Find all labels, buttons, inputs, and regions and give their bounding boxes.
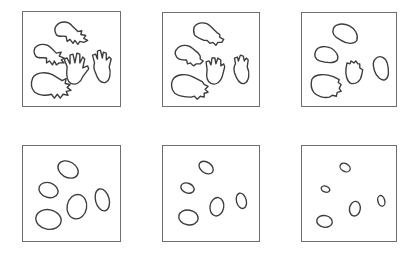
ellipse-icon — [320, 185, 330, 194]
rounded-hand-outline-icon — [175, 45, 203, 65]
ellipse-icon — [37, 180, 60, 201]
ellipse-icon — [197, 159, 216, 177]
small-ellipse-shapes — [302, 146, 396, 241]
blob-shapes — [302, 13, 396, 106]
panel-small-ellipses — [301, 145, 397, 242]
blob-outline-icon — [346, 61, 363, 84]
hand-outline-icon — [55, 22, 88, 44]
hand-outline-icon — [64, 53, 88, 84]
rounded-hand-outline-icon — [194, 23, 224, 45]
blob-outline-icon — [315, 47, 338, 63]
ellipse-icon — [55, 157, 81, 181]
hand-shapes — [23, 12, 120, 106]
panel-blobs — [301, 12, 397, 107]
hand-outline-icon — [32, 73, 71, 98]
rounded-hand-outline-icon — [172, 75, 209, 99]
rounded-hand-outline-icon — [206, 58, 225, 84]
ellipse-icon — [178, 209, 200, 227]
ellipse-icon — [179, 181, 195, 195]
ellipse-icon — [316, 214, 333, 228]
ellipse-icon — [377, 195, 386, 207]
rounded-hand-shapes — [163, 13, 259, 106]
ellipse-icon — [338, 161, 351, 173]
panel-large-ellipses — [22, 145, 121, 242]
large-ellipse-shapes — [23, 146, 120, 241]
blob-outline-icon — [373, 57, 388, 80]
panel-medium-ellipses — [162, 145, 260, 242]
ellipse-icon — [348, 201, 361, 217]
ellipse-icon — [65, 193, 89, 221]
blob-outline-icon — [333, 24, 358, 43]
ellipse-icon — [235, 192, 249, 210]
rounded-hand-outline-icon — [234, 55, 249, 83]
hand-outline-icon — [34, 44, 64, 64]
medium-ellipse-shapes — [163, 146, 259, 241]
hand-outline-icon — [93, 50, 112, 82]
ellipse-icon — [209, 196, 226, 217]
panel-rounded-hands — [162, 12, 260, 107]
ellipse-icon — [34, 208, 62, 232]
ellipse-icon — [93, 187, 112, 212]
blob-outline-icon — [311, 75, 341, 98]
panel-hands — [22, 11, 121, 107]
